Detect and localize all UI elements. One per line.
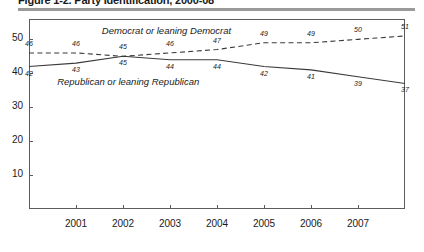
data-point-label: 41: [304, 73, 318, 80]
data-point-label: 49: [304, 30, 318, 37]
data-point-label: 51: [398, 23, 412, 30]
data-point-label: 46: [69, 40, 83, 47]
data-point-label: 37: [398, 86, 412, 93]
series-name-label: Democrat or leaning Democrat: [102, 25, 231, 36]
figure-container: Figure 1-2. Party Identification, 2000-0…: [0, 0, 424, 252]
data-point-label: 46: [163, 40, 177, 47]
data-point-label: 50: [351, 26, 365, 33]
data-point-label: 44: [163, 63, 177, 70]
data-point-label: 44: [210, 63, 224, 70]
data-point-label: 47: [210, 37, 224, 44]
data-point-label: 46: [22, 40, 36, 47]
data-point-label: 45: [116, 59, 130, 66]
data-point-label: 49: [257, 30, 271, 37]
data-point-label: 42: [22, 70, 36, 77]
series-name-label: Republican or leaning Republican: [57, 76, 199, 87]
data-point-label: 43: [69, 66, 83, 73]
data-point-label: 42: [257, 70, 271, 77]
data-point-label: 39: [351, 80, 365, 87]
data-point-label: 45: [116, 43, 130, 50]
